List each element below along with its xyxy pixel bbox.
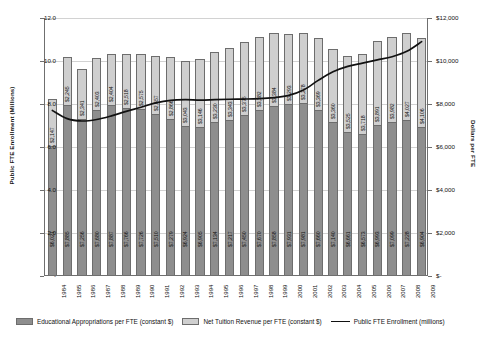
x-axis-tick-label: 1991 bbox=[164, 285, 170, 298]
bar-group[interactable]: $2,657$7,510 bbox=[151, 56, 160, 275]
tuition-bar-segment[interactable]: $3,525 bbox=[343, 56, 352, 132]
appropriations-bar-segment[interactable]: $6,905 bbox=[195, 127, 204, 275]
tuition-bar-segment[interactable]: $3,384 bbox=[269, 33, 278, 106]
tuition-value-label: $2,866 bbox=[167, 100, 173, 116]
tick-mark bbox=[428, 147, 432, 148]
y-right-tick-label: $8,000 bbox=[436, 100, 480, 107]
bar-group[interactable]: $3,146$6,905 bbox=[195, 59, 204, 275]
bar-group[interactable]: $2,245$7,885 bbox=[63, 57, 72, 275]
tuition-bar-segment[interactable]: $4,027 bbox=[402, 33, 411, 120]
tuition-bar-segment[interactable]: $3,293 bbox=[284, 34, 293, 105]
appropriations-value-label: $6,661 bbox=[344, 231, 350, 247]
tuition-bar-segment[interactable]: $3,146 bbox=[195, 59, 204, 127]
appropriations-bar-segment[interactable]: $6,021 bbox=[48, 146, 57, 275]
bar-group[interactable]: $2,866$7,279 bbox=[166, 57, 175, 275]
x-axis-tick-label: 1988 bbox=[120, 285, 126, 298]
tuition-bar-segment[interactable]: $3,382 bbox=[255, 37, 264, 110]
appropriations-bar-segment[interactable]: $7,670 bbox=[255, 110, 264, 275]
tick-mark bbox=[40, 147, 44, 148]
tuition-bar-segment[interactable]: $3,230 bbox=[210, 52, 219, 121]
appropriations-bar-segment[interactable]: $6,904 bbox=[417, 127, 426, 275]
bar-group[interactable]: $3,230$7,134 bbox=[210, 52, 219, 275]
bar-group[interactable]: $3,360$7,140 bbox=[328, 49, 337, 275]
tuition-bar-segment[interactable]: $3,343 bbox=[225, 48, 234, 120]
appropriations-bar-segment[interactable]: $7,931 bbox=[284, 104, 293, 275]
appropriations-bar-segment[interactable]: $7,885 bbox=[63, 105, 72, 275]
appropriations-bar-segment[interactable]: $7,660 bbox=[314, 110, 323, 275]
tuition-bar-segment[interactable]: $3,278 bbox=[299, 33, 308, 103]
tuition-bar-segment[interactable]: $2,575 bbox=[136, 54, 145, 109]
appropriations-bar-segment[interactable]: $7,279 bbox=[166, 119, 175, 275]
appropriations-bar-segment[interactable]: $7,766 bbox=[122, 108, 131, 275]
chart-legend: Educational Appropriations per FTE (cons… bbox=[16, 318, 445, 325]
tuition-bar-segment[interactable]: $3,369 bbox=[314, 38, 323, 110]
appropriations-bar-segment[interactable]: $7,858 bbox=[269, 106, 278, 275]
appropriations-bar-segment[interactable]: $7,450 bbox=[240, 115, 249, 275]
bar-group[interactable]: $3,293$7,931 bbox=[284, 34, 293, 275]
bar-group[interactable]: $3,718$6,573 bbox=[358, 54, 367, 275]
appropriations-value-label: $7,670 bbox=[256, 231, 262, 247]
appropriations-bar-segment[interactable]: $7,228 bbox=[402, 120, 411, 275]
bar-group[interactable]: $2,518$7,766 bbox=[122, 54, 131, 275]
bar-group[interactable]: $2,403$7,680 bbox=[92, 58, 101, 275]
appropriations-bar-segment[interactable]: $7,099 bbox=[387, 122, 396, 275]
tuition-bar-segment[interactable]: $3,982 bbox=[387, 37, 396, 123]
x-axis-tick-label: 1986 bbox=[90, 285, 96, 298]
tick-mark bbox=[428, 276, 432, 277]
bar-group[interactable]: $2,341$7,256 bbox=[77, 69, 86, 275]
tuition-bar-segment[interactable]: $3,891 bbox=[373, 41, 382, 125]
tuition-bar-segment[interactable]: $3,375 bbox=[240, 42, 249, 115]
appropriations-bar-segment[interactable]: $7,680 bbox=[92, 110, 101, 275]
x-axis-tick-label: 2004 bbox=[356, 285, 362, 298]
appropriations-bar-segment[interactable]: $6,924 bbox=[181, 126, 190, 275]
bar-group[interactable]: $3,525$6,661 bbox=[343, 56, 352, 275]
bar-group[interactable]: $3,891$6,993 bbox=[373, 41, 382, 275]
bar-group[interactable]: $3,343$7,217 bbox=[225, 48, 234, 275]
appropriations-value-label: $7,726 bbox=[138, 231, 144, 247]
tuition-bar-segment[interactable]: $2,404 bbox=[107, 54, 116, 106]
appropriations-bar-segment[interactable]: $7,217 bbox=[225, 120, 234, 275]
tuition-bar-segment[interactable]: $2,245 bbox=[63, 57, 72, 105]
tuition-bar-segment[interactable]: $2,341 bbox=[77, 69, 86, 119]
bar-group[interactable]: $3,278$7,981 bbox=[299, 33, 308, 275]
tuition-bar-segment[interactable]: $2,657 bbox=[151, 56, 160, 113]
tuition-bar-segment[interactable]: $3,043 bbox=[181, 61, 190, 126]
x-axis-tick-label: 1998 bbox=[267, 285, 273, 298]
appropriations-bar-segment[interactable]: $7,134 bbox=[210, 122, 219, 275]
appropriations-value-label: $6,904 bbox=[418, 231, 424, 247]
tuition-bar-segment[interactable]: $3,360 bbox=[328, 49, 337, 121]
tuition-value-label: $2,657 bbox=[152, 95, 158, 111]
bar-group[interactable]: $3,369$7,660 bbox=[314, 38, 323, 275]
tuition-bar-segment[interactable]: $2,403 bbox=[92, 58, 101, 110]
x-axis-tick-label: 1995 bbox=[223, 285, 229, 298]
tuition-bar-segment[interactable]: $2,866 bbox=[166, 57, 175, 119]
bar-group[interactable]: $3,375$7,450 bbox=[240, 42, 249, 275]
bar-group[interactable]: $3,384$7,858 bbox=[269, 33, 278, 275]
x-axis-tick-label: 2009 bbox=[430, 285, 436, 298]
bar-group[interactable]: $3,043$6,924 bbox=[181, 61, 190, 275]
tuition-bar-segment[interactable]: $3,718 bbox=[358, 54, 367, 134]
tuition-bar-segment[interactable]: $4,106 bbox=[417, 38, 426, 126]
appropriations-bar-segment[interactable]: $6,993 bbox=[373, 125, 382, 275]
appropriations-bar-segment[interactable]: $7,510 bbox=[151, 114, 160, 275]
tuition-value-label: $3,718 bbox=[359, 115, 365, 131]
bar-group[interactable]: $2,575$7,726 bbox=[136, 54, 145, 275]
bar-group[interactable]: $3,982$7,099 bbox=[387, 37, 396, 275]
appropriations-bar-segment[interactable]: $7,140 bbox=[328, 122, 337, 276]
appropriations-bar-segment[interactable]: $7,256 bbox=[77, 119, 86, 275]
tuition-value-label: $3,382 bbox=[256, 92, 262, 108]
appropriations-bar-segment[interactable]: $6,661 bbox=[343, 132, 352, 275]
plot-area: $2,147$6,021$2,245$7,885$2,341$7,256$2,4… bbox=[44, 18, 428, 276]
bar-group[interactable]: $4,027$7,228 bbox=[402, 33, 411, 275]
bar-group[interactable]: $3,382$7,670 bbox=[255, 37, 264, 275]
bar-group[interactable]: $2,404$7,887 bbox=[107, 54, 116, 275]
appropriations-bar-segment[interactable]: $7,726 bbox=[136, 109, 145, 275]
appropriations-bar-segment[interactable]: $7,981 bbox=[299, 103, 308, 275]
tuition-bar-segment[interactable]: $2,518 bbox=[122, 54, 131, 108]
appropriations-bar-segment[interactable]: $6,573 bbox=[358, 134, 367, 275]
x-axis-tick-label: 2007 bbox=[400, 285, 406, 298]
appropriations-bar-segment[interactable]: $7,887 bbox=[107, 105, 116, 275]
tuition-value-label: $3,146 bbox=[197, 108, 203, 124]
bar-group[interactable]: $4,106$6,904 bbox=[417, 38, 426, 275]
tuition-value-label: $4,106 bbox=[418, 108, 424, 124]
